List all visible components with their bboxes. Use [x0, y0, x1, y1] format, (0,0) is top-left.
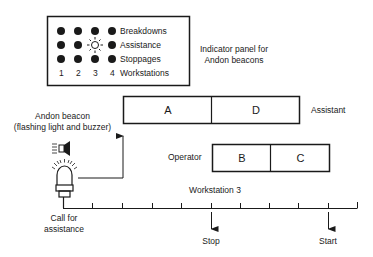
indicator-dots [57, 27, 116, 63]
panel-row-breakdowns: Breakdowns [120, 26, 167, 36]
beacon-title-line2: (flashing light and buzzer) [10, 122, 115, 132]
operator-row-label: Operator [168, 152, 202, 162]
panel-row-stoppages: Stoppages [120, 54, 161, 64]
workstation-number-1: 1 [59, 68, 64, 78]
panel-caption-line1: Indicator panel for [196, 44, 272, 54]
panel-row-assistance: Assistance [120, 40, 161, 50]
task-segment-d: D [212, 104, 300, 116]
event-label-stop: Stop [196, 236, 226, 246]
panel-caption-line2: Andon beacons [196, 55, 272, 65]
call-connector-arrow [78, 136, 123, 178]
task-segment-b: B [213, 152, 271, 164]
workstations-label: Workstations [120, 68, 169, 78]
timeline-axis [63, 202, 358, 209]
task-segment-a: A [124, 104, 212, 116]
timeline-label: Workstation 3 [180, 185, 250, 195]
workstation-number-2: 2 [76, 68, 81, 78]
workstation-number-4: 4 [110, 68, 115, 78]
beacon-title-line1: Andon beacon [10, 111, 115, 121]
call-label-line2: assistance [38, 224, 90, 234]
task-segment-c: C [271, 152, 330, 164]
buzzer-speaker-icon [52, 141, 70, 156]
call-label-line1: Call for [38, 213, 90, 223]
assistant-row-label: Assistant [311, 105, 346, 115]
workstation-number-3: 3 [93, 68, 98, 78]
lit-indicator-icon [87, 37, 103, 53]
event-label-start: Start [312, 236, 344, 246]
flashing-beacon-icon [52, 159, 77, 208]
